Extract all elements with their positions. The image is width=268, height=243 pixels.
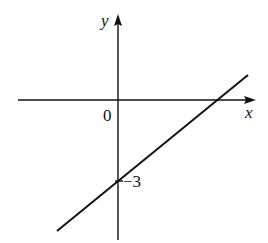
y-intercept-label: −3 [123, 173, 141, 190]
graph-canvas [0, 0, 268, 243]
y-axis-label: y [101, 12, 109, 29]
x-axis-label: x [245, 104, 253, 121]
plotted-line [57, 75, 248, 231]
y-axis [114, 14, 122, 240]
origin-label: 0 [103, 107, 112, 124]
